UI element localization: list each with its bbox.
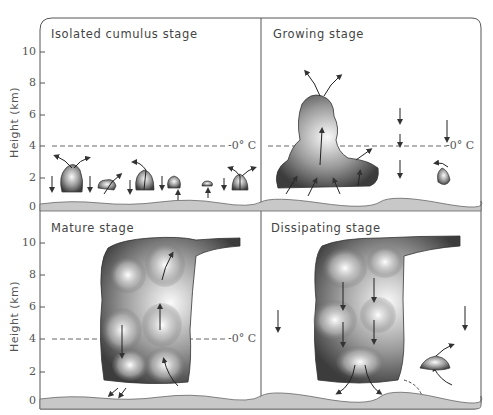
isolated-cumulus-clouds <box>61 164 248 192</box>
mature-cloud <box>100 237 240 396</box>
tick-top-4: 4 <box>22 139 36 152</box>
panel-title-mature: Mature stage <box>51 221 134 235</box>
freezing-label-isolated: -0° C <box>228 139 256 152</box>
tick-bottom-4: 4 <box>22 332 36 345</box>
thunderstorm-diagram <box>0 0 493 415</box>
tick-top-2: 2 <box>22 171 36 184</box>
tick-top-10: 10 <box>22 45 36 58</box>
tick-top-0: 0 <box>22 200 36 213</box>
y-axis-label-top: Height (km) <box>8 87 21 158</box>
freezing-label-mature: -0° C <box>228 332 256 345</box>
tick-bottom-0: 0 <box>22 394 36 407</box>
freezing-label-growing: -0° C <box>446 139 474 152</box>
tick-top-6: 6 <box>22 108 36 121</box>
tick-bottom-6: 6 <box>22 300 36 313</box>
tick-top-8: 8 <box>22 76 36 89</box>
panel-title-isolated: Isolated cumulus stage <box>51 27 198 41</box>
y-ticks-top <box>40 52 45 372</box>
tick-bottom-2: 2 <box>22 365 36 378</box>
dissipating-cloud <box>278 236 465 396</box>
growing-cloud <box>276 72 450 196</box>
panel-title-growing: Growing stage <box>273 27 364 41</box>
tick-bottom-10: 10 <box>22 236 36 249</box>
y-axis-label-bottom: Height (km) <box>8 281 21 352</box>
tick-bottom-8: 8 <box>22 268 36 281</box>
panel-title-dissipating: Dissipating stage <box>271 221 381 235</box>
